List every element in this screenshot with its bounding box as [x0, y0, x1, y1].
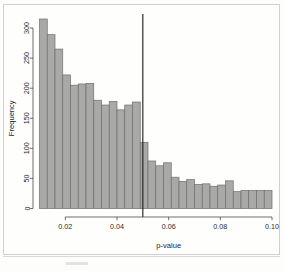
histogram-bar	[86, 83, 94, 208]
histogram-bar	[71, 85, 79, 208]
y-axis-label: Frequency	[8, 100, 17, 136]
histogram-bar	[249, 190, 257, 208]
histogram-bar	[164, 163, 172, 209]
y-tick-label: 0	[23, 207, 32, 211]
scanned-page: 050100150200250300 Frequency 0.020.040.0…	[0, 0, 284, 271]
histogram-bar	[140, 142, 148, 208]
x-tick-label: 0.08	[213, 222, 227, 231]
histogram-plot: 050100150200250300 Frequency 0.020.040.0…	[0, 0, 284, 271]
histogram-bar	[102, 105, 110, 208]
histogram-bar	[133, 102, 141, 208]
histogram-bar	[148, 161, 156, 209]
histogram-bar	[117, 110, 125, 209]
y-tick-label: 300	[23, 22, 32, 34]
histogram-bar	[264, 190, 272, 208]
histogram-bar	[257, 190, 265, 208]
histogram-bar	[55, 49, 63, 208]
histogram-bar	[171, 177, 179, 208]
histogram-bar	[218, 185, 226, 208]
histogram-bar	[125, 105, 133, 208]
histogram-bar	[241, 190, 249, 208]
y-tick-label: 150	[23, 112, 32, 124]
y-tick-label: 200	[23, 82, 32, 94]
histogram-bar	[233, 192, 241, 209]
y-tick-label: 100	[23, 142, 32, 154]
histogram-bar	[40, 19, 48, 208]
x-tick-group: 0.020.040.060.080.10	[58, 217, 279, 231]
x-tick-label: 0.10	[265, 222, 279, 231]
histogram-bars	[40, 19, 273, 209]
y-tick-label: 50	[23, 174, 32, 182]
histogram-bar	[195, 184, 203, 208]
histogram-bar	[226, 181, 234, 209]
x-axis: 0.020.040.060.080.10 p-value	[58, 217, 279, 250]
histogram-bar	[94, 100, 102, 208]
x-axis-label: p-value	[156, 241, 181, 250]
histogram-bar	[210, 186, 218, 208]
histogram-bar	[187, 180, 195, 209]
x-tick-label: 0.02	[58, 222, 72, 231]
histogram-bar	[156, 166, 164, 209]
y-axis: 050100150200250300 Frequency	[8, 22, 34, 210]
histogram-bar	[78, 84, 86, 209]
x-tick-label: 0.06	[162, 222, 176, 231]
x-tick-label: 0.04	[110, 222, 124, 231]
y-tick-label: 250	[23, 52, 32, 64]
histogram-bar	[179, 181, 187, 208]
histogram-bar	[202, 184, 210, 209]
histogram-bar	[47, 35, 55, 209]
y-tick-group: 050100150200250300	[23, 22, 34, 210]
histogram-bar	[63, 75, 71, 209]
histogram-bar	[109, 101, 117, 208]
